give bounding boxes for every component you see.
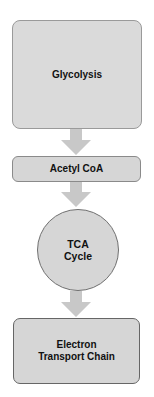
node-label-line-1: Electron xyxy=(38,339,115,351)
node-electron-transport-chain: Electron Transport Chain xyxy=(13,318,140,384)
node-label-line-2: Transport Chain xyxy=(38,351,115,363)
node-label-line-2: Cycle xyxy=(64,250,92,262)
node-glycolysis: Glycolysis xyxy=(12,20,142,129)
node-label-line-1: TCA xyxy=(64,238,92,250)
node-acetyl-coa: Acetyl CoA xyxy=(12,156,141,182)
arrow-glycolysis-to-acetyl xyxy=(0,129,154,156)
node-label: Acetyl CoA xyxy=(50,163,103,175)
arrow-tca-to-etc xyxy=(0,291,154,318)
node-label: Glycolysis xyxy=(52,69,102,81)
node-tca-cycle: TCA Cycle xyxy=(37,209,119,291)
arrow-acetyl-to-tca xyxy=(0,182,154,209)
